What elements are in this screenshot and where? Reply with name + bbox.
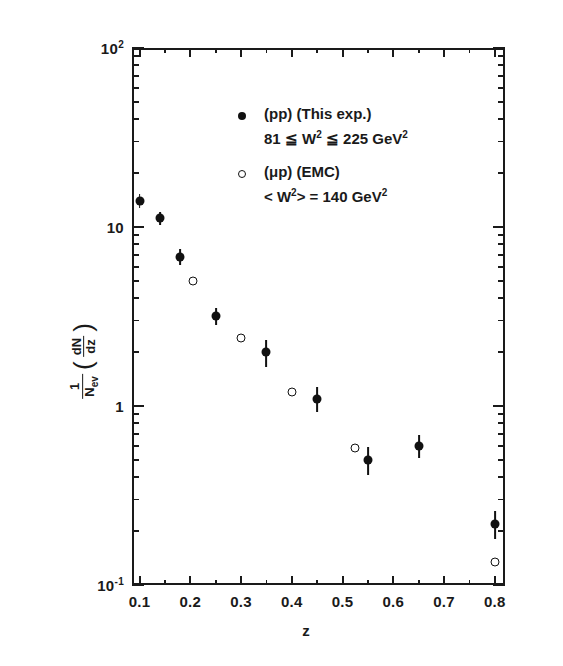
x-minor-tick-top xyxy=(316,48,318,53)
y-minor-tick xyxy=(132,445,139,447)
x-major-tick xyxy=(392,576,394,585)
y-minor-tick-right xyxy=(498,64,505,66)
y-minor-tick-right xyxy=(498,243,505,245)
x-tick-label: 0.7 xyxy=(433,593,455,610)
y-minor-tick-right xyxy=(498,413,505,415)
x-minor-tick xyxy=(164,580,166,585)
x-tick-label: 0.8 xyxy=(484,593,506,610)
x-minor-tick xyxy=(418,580,420,585)
y-minor-tick xyxy=(132,141,139,143)
y-major-tick xyxy=(132,405,144,407)
figure-root: 0.10.20.30.40.50.60.70.8 10210110-1 z 1 … xyxy=(0,0,563,666)
x-tick-label: 0.1 xyxy=(129,593,151,610)
y-minor-tick-right xyxy=(498,55,505,57)
y-minor-tick-right xyxy=(498,254,505,256)
y-major-tick-right xyxy=(493,405,505,407)
y-tick-label-1e2: 102 xyxy=(60,39,124,57)
data-point-filled xyxy=(490,519,499,528)
y-title-prefactor-num: 1 xyxy=(68,374,82,399)
data-point-open xyxy=(490,557,499,566)
data-point-open xyxy=(188,276,197,285)
data-point-open xyxy=(351,444,360,453)
y-minor-tick xyxy=(132,320,139,322)
y-minor-tick xyxy=(132,459,139,461)
y-minor-tick-right xyxy=(498,297,505,299)
y-minor-tick-right xyxy=(498,234,505,236)
y-minor-tick xyxy=(132,64,139,66)
left-paren: ( xyxy=(74,361,95,370)
y-major-tick xyxy=(132,47,144,49)
x-tick-label: 0.3 xyxy=(230,593,252,610)
legend-entry-pp: (pp) (This exp.) xyxy=(238,105,488,129)
data-point-filled xyxy=(262,348,271,357)
data-point-filled xyxy=(211,311,220,320)
y-title-derivative-den: dz xyxy=(84,336,99,357)
y-minor-tick-right xyxy=(498,280,505,282)
x-major-tick-top xyxy=(342,48,344,57)
y-minor-tick xyxy=(132,254,139,256)
legend-entry-emc: (μp) (EMC) xyxy=(238,163,488,187)
y-title-prefactor-den: Nev xyxy=(82,374,100,399)
legend-detail-pp-text: 81 ≦ W2 ≦ 225 GeV2 xyxy=(264,129,408,148)
data-point-filled xyxy=(414,441,423,450)
data-point-filled xyxy=(135,196,144,205)
y-minor-tick-right xyxy=(498,530,505,532)
y-minor-tick-right xyxy=(498,320,505,322)
right-paren: ) xyxy=(74,323,95,332)
legend: (pp) (This exp.) 81 ≦ W2 ≦ 225 GeV2 (μp)… xyxy=(238,105,488,213)
x-minor-tick xyxy=(215,580,217,585)
y-minor-tick-right xyxy=(498,351,505,353)
y-minor-tick-right xyxy=(498,101,505,103)
data-point-open xyxy=(287,387,296,396)
y-minor-tick xyxy=(132,172,139,174)
y-minor-tick-right xyxy=(498,87,505,89)
y-minor-tick xyxy=(132,499,139,501)
legend-filled-circle-icon xyxy=(238,112,246,120)
x-tick-label: 0.5 xyxy=(332,593,354,610)
x-minor-tick-top xyxy=(418,48,420,53)
y-minor-tick xyxy=(132,476,139,478)
y-minor-tick-right xyxy=(498,433,505,435)
x-major-tick xyxy=(189,576,191,585)
x-minor-tick-top xyxy=(215,48,217,53)
y-minor-tick xyxy=(132,101,139,103)
x-major-tick xyxy=(342,576,344,585)
y-major-tick-right xyxy=(493,226,505,228)
y-tick-label-1em1: 10-1 xyxy=(60,576,124,594)
x-minor-tick-top xyxy=(367,48,369,53)
data-point-filled xyxy=(363,455,372,464)
x-minor-tick-top xyxy=(266,48,268,53)
y-minor-tick xyxy=(132,75,139,77)
y-minor-tick xyxy=(132,243,139,245)
x-major-tick xyxy=(240,576,242,585)
y-major-tick-right xyxy=(493,47,505,49)
y-minor-tick xyxy=(132,433,139,435)
legend-detail-emc-text: < W2> = 140 GeV2 xyxy=(264,187,387,205)
y-minor-tick xyxy=(132,422,139,424)
y-title-derivative-num: dN xyxy=(70,336,84,357)
x-minor-tick xyxy=(266,580,268,585)
legend-detail-emc: < W2> = 140 GeV2 xyxy=(238,187,488,213)
y-axis-title: 1 Nev ( dN dz ) xyxy=(68,291,100,431)
x-tick-label: 0.2 xyxy=(179,593,201,610)
x-minor-tick xyxy=(367,580,369,585)
y-title-derivative: dN dz xyxy=(70,336,98,357)
legend-detail-pp: 81 ≦ W2 ≦ 225 GeV2 xyxy=(238,129,488,155)
x-minor-tick-top xyxy=(164,48,166,53)
y-minor-tick xyxy=(132,87,139,89)
x-major-tick xyxy=(291,576,293,585)
y-title-prefactor: 1 Nev xyxy=(68,374,100,399)
y-minor-tick-right xyxy=(498,75,505,77)
x-major-tick xyxy=(443,576,445,585)
y-major-tick xyxy=(132,584,144,586)
y-minor-tick-right xyxy=(498,422,505,424)
y-minor-tick xyxy=(132,413,139,415)
legend-label-emc: (μp) (EMC) xyxy=(264,163,340,180)
x-major-tick-top xyxy=(392,48,394,57)
x-tick-label: 0.4 xyxy=(281,593,303,610)
y-minor-tick xyxy=(132,234,139,236)
legend-open-circle-icon xyxy=(238,170,246,178)
x-major-tick-top xyxy=(443,48,445,57)
y-minor-tick xyxy=(132,280,139,282)
y-minor-tick-right xyxy=(498,266,505,268)
